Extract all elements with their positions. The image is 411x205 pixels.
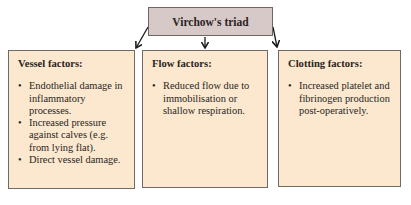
- factor-list: Increased platelet and fibrinogen produc…: [288, 80, 392, 117]
- list-item: Reduced flow due to immobilisation or sh…: [152, 80, 259, 117]
- list-item: Direct vessel damage.: [18, 154, 126, 166]
- box-heading: Clotting factors:: [288, 58, 392, 70]
- list-item: Increased pressure against calves (e.g. …: [18, 117, 126, 154]
- arrow-to-clotting-factors: [273, 27, 277, 47]
- arrow-to-vessel-factors: [136, 27, 148, 48]
- factor-list: Reduced flow due to immobilisation or sh…: [152, 80, 259, 117]
- vessel-factors-box: Vessel factors: Endothelial damage in in…: [8, 50, 135, 189]
- title-text: Virchow's triad: [172, 16, 248, 28]
- list-item: Increased platelet and fibrinogen produc…: [288, 80, 392, 117]
- factor-list: Endothelial damage in inflammatory proce…: [18, 80, 126, 166]
- flow-factors-box: Flow factors: Reduced flow due to immobi…: [142, 50, 268, 188]
- list-item: Endothelial damage in inflammatory proce…: [18, 80, 126, 117]
- virchows-triad-title: Virchow's triad: [148, 7, 273, 36]
- clotting-factors-box: Clotting factors: Increased platelet and…: [278, 50, 401, 187]
- box-heading: Vessel factors:: [18, 58, 126, 70]
- box-heading: Flow factors:: [152, 58, 259, 70]
